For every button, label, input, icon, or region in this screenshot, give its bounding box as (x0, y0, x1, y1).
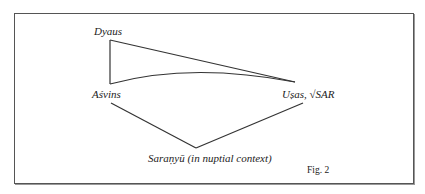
node-asvins: Aśvins (92, 88, 121, 100)
edge-asvins-usas-curve (110, 72, 295, 84)
edge-asvins-saranyu (111, 103, 196, 148)
node-saranyu: Saraṇyū (in nuptial context) (148, 152, 272, 164)
node-dyaus: Dyaus (94, 25, 122, 37)
edge-usas-saranyu (196, 103, 303, 148)
edge-dyaus-usas (110, 40, 295, 82)
figure-caption: Fig. 2 (307, 165, 329, 175)
node-usas: Uṣas, √SAR (282, 88, 334, 100)
relationship-diagram (0, 0, 425, 194)
